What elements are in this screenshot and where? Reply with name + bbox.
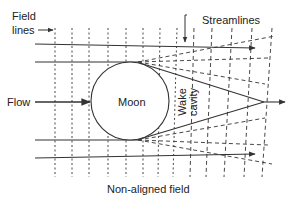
cavity-label: cavity [187, 88, 199, 116]
moon-label: Moon [118, 96, 146, 108]
flow-label: Flow [7, 96, 30, 108]
moon-wake-diagram [0, 0, 293, 200]
non-aligned-field-label: Non-aligned field [107, 183, 190, 195]
field-lines-label-2: lines [12, 24, 35, 36]
wake-label: Wake [176, 88, 188, 116]
field-lines-label-1: Field [12, 10, 36, 22]
streamlines-pointer [185, 15, 187, 42]
streamlines-label: Streamlines [202, 14, 260, 26]
